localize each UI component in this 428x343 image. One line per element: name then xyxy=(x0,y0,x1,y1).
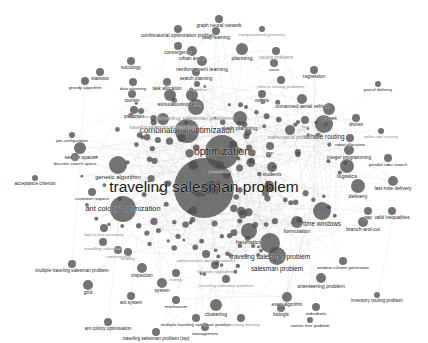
node-label: window column generation xyxy=(317,265,370,270)
graph-node xyxy=(185,149,193,157)
node-label: management xyxy=(192,331,218,336)
graph-node xyxy=(155,137,161,143)
node-label: traveling salesman problem (tsp) xyxy=(130,125,197,130)
node-label: simulation xyxy=(157,101,182,107)
node-label: multiple traveling salesman problem xyxy=(161,322,231,327)
graph-node xyxy=(254,110,259,115)
graph-node xyxy=(151,158,157,164)
graph-node xyxy=(238,102,243,107)
graph-node xyxy=(244,105,248,109)
graph-node xyxy=(127,292,135,300)
node-label: parcel delivery xyxy=(364,87,393,92)
node-label: planning xyxy=(231,55,252,61)
node-label: optimization xyxy=(194,145,250,157)
node-label: robot allocation xyxy=(335,142,365,147)
graph-node xyxy=(171,245,177,251)
graph-node xyxy=(313,202,331,220)
graph-node xyxy=(322,195,326,199)
node-label: task allocation xyxy=(152,86,182,91)
graph-node xyxy=(303,190,309,196)
graph-node xyxy=(199,239,204,244)
graph-node xyxy=(246,158,255,167)
node-label: value-cap scenery xyxy=(364,134,399,139)
graph-node xyxy=(192,314,200,322)
node-label: adhesiveness based networks xyxy=(177,258,237,263)
graph-node xyxy=(152,328,160,336)
node-label: time windows xyxy=(303,220,341,227)
graph-node xyxy=(137,263,147,273)
graph-node xyxy=(237,314,245,322)
graph-node xyxy=(80,175,83,178)
node-label: modeling xyxy=(181,101,203,107)
node-label: search space xyxy=(65,154,96,160)
graph-node xyxy=(316,273,326,283)
node-label: branch-and-cut xyxy=(346,226,380,232)
graph-node xyxy=(147,242,151,246)
graph-node xyxy=(74,142,86,154)
node-label: path planning xyxy=(223,125,258,131)
node-label: vehicle routing problems xyxy=(257,84,305,89)
graph-node xyxy=(157,278,167,288)
node-label: ant system xyxy=(120,300,142,305)
graph-node xyxy=(237,219,242,224)
graph-node xyxy=(257,246,260,249)
graph-node xyxy=(103,183,107,187)
node-label: drones xyxy=(321,115,337,121)
node-label: gap xyxy=(364,215,372,220)
graph-node xyxy=(310,66,318,74)
graph-node xyxy=(283,198,288,203)
node-label: heuristics xyxy=(236,238,262,245)
graph-node xyxy=(233,111,247,125)
graph-node xyxy=(293,200,298,205)
graph-node xyxy=(147,157,152,162)
node-label: system xyxy=(154,288,169,293)
node-label: prediction xyxy=(124,114,144,119)
node-label: pre-configuration xyxy=(56,138,88,143)
node-label: inspection xyxy=(131,273,153,278)
graph-node xyxy=(222,275,230,283)
node-label: computational geometry xyxy=(239,32,287,37)
graph-node xyxy=(264,113,270,119)
node-label: genetic algorithm xyxy=(95,174,141,180)
graph-node xyxy=(220,263,224,267)
graph-node xyxy=(236,264,240,268)
graph-node xyxy=(96,68,104,76)
node-label: traveling salesman problem (tsp) xyxy=(123,336,190,341)
graph-node xyxy=(88,188,96,196)
node-label: orienteering problem xyxy=(297,283,345,289)
graph-node xyxy=(258,90,266,98)
node-label: ant colony optimisation xyxy=(85,326,132,331)
node-label: completion xyxy=(187,87,208,92)
graph-node xyxy=(351,179,365,193)
network-svg: traveling salesman problemoptimizationco… xyxy=(0,0,428,343)
graph-node xyxy=(212,220,218,226)
node-label: presentation xyxy=(208,169,232,174)
graph-node xyxy=(134,142,139,147)
graph-node xyxy=(293,122,297,126)
graph-node xyxy=(144,231,149,236)
graph-node xyxy=(236,165,243,172)
graph-node xyxy=(129,78,137,86)
graph-node xyxy=(231,229,238,236)
node-label: costs xyxy=(269,67,280,72)
node-label: grid xyxy=(84,289,93,295)
graph-node xyxy=(215,15,223,23)
node-label: steiner tree problem xyxy=(290,323,329,328)
graph-node xyxy=(166,138,173,145)
node-label: inventory routing problem xyxy=(351,298,403,303)
node-label: parallel tabu search xyxy=(369,162,408,167)
node-label: valid inequalities xyxy=(374,215,410,220)
graph-node xyxy=(210,299,222,311)
graph-node xyxy=(311,198,315,202)
graph-node xyxy=(282,292,292,302)
graph-node xyxy=(128,90,136,98)
graph-node xyxy=(182,239,185,242)
graph-node xyxy=(174,25,182,33)
node-label: regression xyxy=(303,74,326,79)
node-label: integer programming xyxy=(327,155,372,160)
node-label: search planning xyxy=(180,76,213,81)
node-label: tourism xyxy=(124,98,139,103)
node-label: logistics xyxy=(337,173,357,179)
graph-node xyxy=(234,194,239,199)
node-label: traveling salesman problem xyxy=(199,283,253,288)
